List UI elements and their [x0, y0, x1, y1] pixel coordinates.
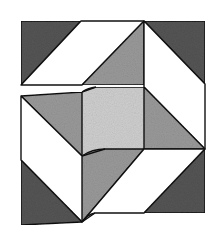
quilt-block-svg [0, 0, 223, 233]
quilt-block-diagram: Quilt block [0, 0, 223, 233]
center-square [82, 87, 144, 156]
